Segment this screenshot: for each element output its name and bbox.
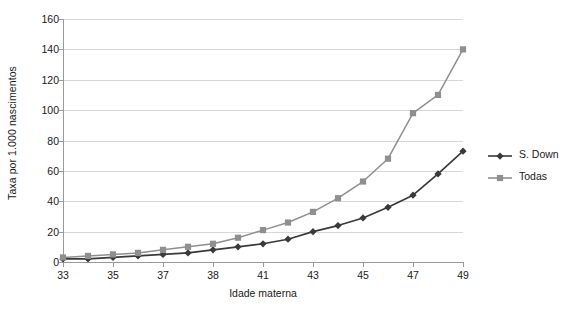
series-line xyxy=(63,49,463,257)
x-axis-title: Idade materna xyxy=(63,287,463,299)
data-point-marker xyxy=(310,209,316,215)
data-point-marker xyxy=(85,253,91,259)
data-point-marker xyxy=(234,243,241,250)
legend-diamond-marker-icon xyxy=(487,148,513,160)
data-point-marker xyxy=(260,227,266,233)
data-point-marker xyxy=(284,236,291,243)
data-point-marker xyxy=(184,249,191,256)
data-point-marker xyxy=(160,247,166,253)
series-s-down xyxy=(59,148,466,263)
legend-square-marker-icon xyxy=(487,170,513,182)
chart-legend: S. DownTodas xyxy=(487,143,573,187)
data-point-marker xyxy=(209,246,216,253)
data-point-marker xyxy=(135,250,141,256)
data-point-marker xyxy=(110,251,116,257)
series-todas xyxy=(60,46,466,260)
data-point-marker xyxy=(359,214,366,221)
data-point-marker xyxy=(384,204,391,211)
legend-item-todas[interactable]: Todas xyxy=(487,165,573,187)
data-point-marker xyxy=(435,92,441,98)
data-point-marker xyxy=(334,222,341,229)
data-point-marker xyxy=(460,46,466,52)
data-point-marker xyxy=(60,254,66,260)
data-point-marker xyxy=(309,228,316,235)
legend-item-label: Todas xyxy=(519,170,547,182)
chart-figure: Taxa por 1.000 nascimentos 0204060801001… xyxy=(0,0,575,309)
data-point-marker xyxy=(285,219,291,225)
legend-item-label: S. Down xyxy=(519,148,559,160)
legend-item-s-down[interactable]: S. Down xyxy=(487,143,573,165)
data-point-marker xyxy=(259,240,266,247)
data-point-marker xyxy=(235,235,241,241)
data-point-marker xyxy=(385,156,391,162)
data-point-marker xyxy=(360,178,366,184)
data-point-marker xyxy=(410,110,416,116)
data-point-marker xyxy=(185,244,191,250)
data-point-marker xyxy=(335,195,341,201)
data-point-marker xyxy=(210,241,216,247)
